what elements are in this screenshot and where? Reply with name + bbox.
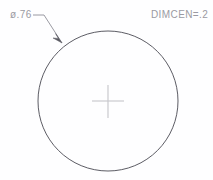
center-mark-cross (92, 85, 124, 118)
leader-arrowhead-icon (53, 34, 62, 43)
diameter-leader (33, 15, 62, 43)
dimcen-variable-text: DIMCEN=.2 (151, 9, 208, 20)
cad-drawing-canvas: ø.76 DIMCEN=.2 (0, 0, 213, 180)
diameter-dimension-text: ø.76 (10, 9, 32, 20)
drawing-viewport (0, 0, 213, 180)
